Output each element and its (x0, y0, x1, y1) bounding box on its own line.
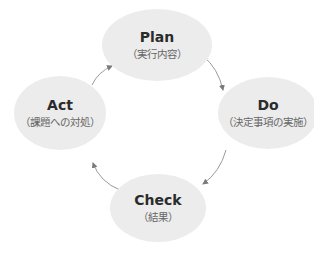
node-plan-title: Plan (140, 29, 174, 45)
node-plan: Plan （実行内容） (102, 9, 212, 81)
node-check-title: Check (134, 192, 181, 208)
node-check-subtitle: （結果） (138, 210, 178, 224)
arrow-act-to-plan (92, 66, 112, 85)
node-do-subtitle: （決定事項の実施） (223, 115, 313, 129)
node-do: Do （決定事項の実施） (218, 77, 314, 149)
node-act: Act （課題への対処） (14, 76, 106, 150)
node-act-title: Act (47, 97, 73, 113)
arrow-check-to-act (93, 163, 120, 190)
node-act-subtitle: （課題への対処） (20, 115, 100, 129)
node-do-title: Do (257, 97, 278, 113)
node-plan-subtitle: （実行内容） (127, 47, 187, 61)
node-check: Check （結果） (110, 174, 206, 242)
arrow-do-to-check (203, 150, 226, 184)
